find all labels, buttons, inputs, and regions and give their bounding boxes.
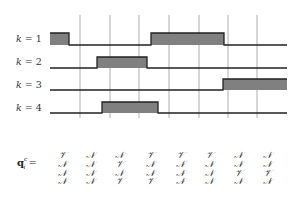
- pulse-block: [223, 79, 287, 90]
- signal-label-k1: k = 1: [16, 33, 42, 44]
- signal-k3: [50, 79, 287, 90]
- matrix-cell: 𝒩: [55, 177, 69, 186]
- signal-label-k4: k = 4: [16, 102, 42, 113]
- signal-label-k3: k = 3: [16, 79, 42, 90]
- signal-trace: [50, 57, 287, 68]
- signal-trace: [50, 102, 287, 113]
- pulse-block: [97, 57, 147, 68]
- matrix-cell: 𝒩: [231, 177, 245, 186]
- pulse-block: [102, 102, 158, 113]
- matrix-cell: 𝒩: [173, 177, 187, 186]
- signal-k1: [50, 33, 287, 45]
- pulse-block: [151, 33, 224, 45]
- matrix-label: qci =: [17, 156, 37, 170]
- matrix-cell: 𝒩: [260, 177, 274, 186]
- signal-k2: [50, 57, 287, 68]
- timing-diagram: k = 1k = 2k = 3k = 4 qci = 𝒱𝒩𝒩𝒱𝒱𝒱𝒩𝒩𝒩𝒩𝒱𝒩𝒩…: [0, 0, 300, 198]
- pulse-block: [50, 33, 69, 45]
- matrix-label-equals: =: [25, 157, 37, 168]
- matrix-cell: 𝒩: [202, 177, 216, 186]
- matrix-label-sup: c: [24, 155, 27, 162]
- signal-label-k2: k = 2: [16, 56, 42, 67]
- matrix-cell: 𝒱: [112, 177, 126, 186]
- matrix-cell: 𝒱: [143, 177, 157, 186]
- signal-k4: [50, 102, 287, 113]
- matrix-cell: 𝒩: [83, 177, 97, 186]
